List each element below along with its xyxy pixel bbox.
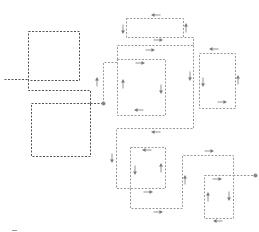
arrowhead-down-icon [188,78,192,81]
arrowhead-right-icon [219,177,222,181]
path-diagram [0,0,259,232]
arrowhead-down-icon [159,91,163,94]
arrowhead-up-icon [236,76,240,79]
arrowhead-up-icon [159,164,163,167]
arrowhead-right-icon [150,190,153,194]
arrowhead-right-icon [142,61,145,65]
dotted-loop-loop-top [127,19,184,38]
diagram-canvas [0,0,259,232]
dotted-path-route-4 [131,156,234,209]
arrowhead-up-icon [183,176,187,179]
arrowhead-left-icon [152,13,155,17]
dashed-line-block-a-tail [29,80,91,104]
arrowhead-left-icon [143,148,146,152]
arrowhead-down-icon [201,84,205,87]
arrowhead-up-icon [95,78,99,81]
arrowhead-left-icon [214,219,217,223]
arrowhead-left-icon [210,47,213,51]
dashed-block-block-b [32,104,91,157]
dotted-loop-loop-mid [118,60,166,116]
dashed-block-block-a [29,32,80,81]
arrowhead-right-icon [160,38,163,42]
arrowhead-left-icon [135,108,138,112]
node-dot-terminal-out [254,174,258,178]
arrowhead-down-icon [121,31,125,34]
dotted-loop-loop-right [200,54,236,109]
arrowhead-up-icon [206,193,210,196]
arrowhead-down-icon [133,172,137,175]
arrowhead-right-icon [152,48,155,52]
arrowhead-up-icon [121,80,125,83]
arrowhead-right-icon [211,149,214,153]
dotted-path-route-1 [104,63,118,104]
arrowhead-down-icon [110,160,114,163]
dotted-path-route-3 [117,46,194,189]
footnote-mark [12,230,17,231]
arrowhead-down-icon [227,198,231,201]
dotted-path-route-2 [118,38,194,60]
node-dot-junction-main [102,102,106,106]
arrowhead-left-icon [152,130,155,134]
arrowhead-right-icon [224,100,227,104]
arrowhead-up-icon [184,24,188,27]
arrowhead-right-icon [160,210,163,214]
dotted-loop-loop-lower-mid [131,148,166,189]
